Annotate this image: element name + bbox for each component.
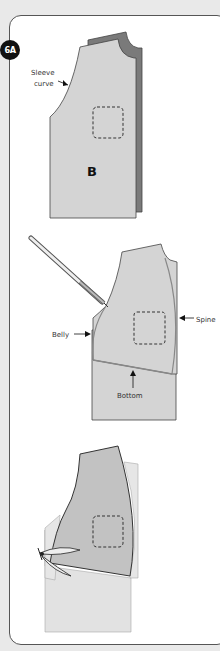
- diagram-canvas: B Sleeve curve Belly Spine Bot: [0, 0, 220, 651]
- arrow-icon: [63, 80, 68, 86]
- label-belly: Belly: [52, 331, 69, 339]
- figure-1-pattern-piece: B Sleeve curve: [31, 32, 142, 218]
- arrow-icon: [179, 315, 185, 321]
- figure-2-pattern-piece: Belly Spine Bottom: [31, 238, 216, 420]
- arrow-icon: [85, 331, 91, 337]
- pen-icon: [31, 238, 108, 307]
- figure-3-pattern-piece: [38, 446, 138, 632]
- annotation-sleeve-1: Sleeve: [31, 69, 54, 77]
- label-spine: Spine: [196, 316, 216, 324]
- label-bottom: Bottom: [117, 392, 143, 400]
- annotation-sleeve-2: curve: [34, 80, 54, 88]
- piece-label: B: [87, 164, 97, 179]
